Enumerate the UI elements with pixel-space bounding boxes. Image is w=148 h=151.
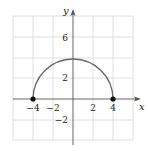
x-tick-label: −2 <box>46 103 59 113</box>
graph-canvas: −4 −2 2 4 6 2 −2 x y <box>0 0 148 151</box>
x-tick-label: 2 <box>90 103 96 113</box>
y-axis <box>71 9 76 145</box>
x-tick-label: −4 <box>26 103 40 113</box>
x-axis-label: x <box>139 101 145 112</box>
y-axis-label: y <box>62 5 69 16</box>
x-tick-label: 4 <box>110 103 116 113</box>
endpoint-right <box>110 96 115 101</box>
y-tick-label: 6 <box>62 33 68 43</box>
y-tick-label: −2 <box>55 115 68 125</box>
y-tick-label: 2 <box>62 73 68 83</box>
endpoint-left <box>30 96 35 101</box>
